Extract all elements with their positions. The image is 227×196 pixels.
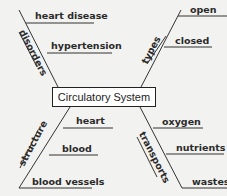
item-heart: heart [76, 116, 105, 126]
item-nutrients: nutrients [176, 143, 225, 153]
spider-map: Circulatory System disorders heart disea… [0, 0, 227, 196]
item-closed: closed [175, 36, 209, 46]
item-hypertension: hypertension [51, 41, 122, 51]
item-oxygen: oxygen [162, 117, 201, 127]
central-topic: Circulatory System [52, 87, 156, 107]
item-wastes: wastes [192, 177, 227, 187]
item-heart-disease: heart disease [35, 11, 108, 21]
item-blood-vessels: blood vessels [32, 177, 105, 187]
item-blood: blood [62, 144, 92, 154]
item-open: open [190, 5, 217, 15]
